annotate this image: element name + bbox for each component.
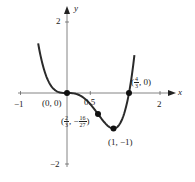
data-point (64, 90, 70, 96)
x-tick-label-2: 2 (157, 100, 162, 109)
point-label-root: (43, 0) (131, 76, 151, 89)
data-point (111, 126, 117, 132)
fraction-16-27: 1627 (79, 115, 87, 128)
y-axis-arrow-icon (64, 6, 70, 14)
point-label-origin: (0, 0) (42, 99, 62, 108)
data-point (95, 111, 101, 117)
point-label-inflection: (23, −1627) (61, 115, 90, 128)
y-tick-label-neg2: −2 (50, 160, 60, 169)
y-tick-label-2: 2 (56, 17, 61, 26)
x-tick-label-neg1: −1 (14, 100, 24, 109)
x-tick-label-05: 0.5 (84, 98, 95, 107)
y-axis-label: y (74, 4, 78, 13)
x-axis-arrow-icon (168, 90, 176, 96)
data-point (126, 90, 132, 96)
x-axis-label: x (178, 88, 182, 97)
function-plot (0, 0, 195, 182)
point-label-minimum: (1, −1) (108, 138, 133, 147)
